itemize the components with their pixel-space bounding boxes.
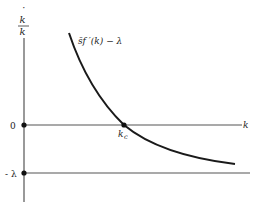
minus-lambda-point bbox=[21, 170, 26, 175]
minus-lambda-tick-label: - λ bbox=[5, 169, 17, 179]
zero-point bbox=[21, 122, 26, 127]
kc-label: k bbox=[118, 129, 123, 139]
y-label-numerator: k bbox=[20, 14, 26, 25]
growth-diagram: ˙ k k k s̄f ′(k) − λ 0 - λ k c bbox=[0, 0, 257, 218]
curve-label: s̄f ′(k) − λ bbox=[78, 36, 122, 46]
y-label-denominator: k bbox=[20, 26, 26, 37]
kc-subscript: c bbox=[124, 133, 128, 141]
zero-tick-label: 0 bbox=[10, 121, 16, 131]
sf-prime-curve bbox=[69, 33, 235, 164]
x-axis-label: k bbox=[243, 120, 248, 130]
kc-point bbox=[121, 122, 126, 127]
y-axis-label: ˙ k k bbox=[18, 6, 29, 37]
